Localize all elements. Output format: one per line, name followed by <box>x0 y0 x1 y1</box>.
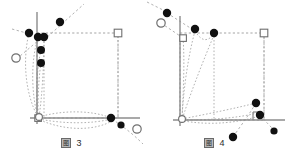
data-point <box>37 59 45 67</box>
diagram-canvas-4 <box>143 0 286 152</box>
data-point <box>40 33 48 41</box>
data-point <box>210 29 218 37</box>
open-square-marker <box>260 29 268 37</box>
data-point <box>163 9 171 17</box>
caption-figure-3: 图 3 <box>0 138 143 148</box>
data-point <box>107 114 115 122</box>
diagonal-guide-top-dot <box>167 13 195 31</box>
open-square-marker <box>114 29 122 37</box>
data-point <box>270 127 277 134</box>
data-point <box>117 121 124 128</box>
open-circle-marker-origin <box>179 116 186 123</box>
figure-glyph-icon: 图 <box>204 138 214 148</box>
data-point <box>56 18 64 26</box>
diagram-panel-3: 图 3 <box>0 0 143 152</box>
data-point <box>252 99 260 107</box>
open-circle-marker <box>133 125 141 133</box>
diagram-canvas-3 <box>0 0 143 152</box>
data-point <box>191 25 199 33</box>
figure-number: 4 <box>219 139 224 148</box>
open-square-marker-axis <box>180 35 187 42</box>
open-circle-marker-origin <box>36 114 43 121</box>
figure-number: 3 <box>76 139 81 148</box>
trajectory-curves <box>182 31 259 123</box>
drop-lines <box>44 33 118 118</box>
open-circle-marker <box>157 19 165 27</box>
data-point <box>25 29 33 37</box>
caption-figure-4: 图 4 <box>143 138 286 148</box>
diagram-panel-4: 图 4 <box>143 0 286 152</box>
dashed-rectangle <box>37 33 118 118</box>
figure-root: 图 3 <box>0 0 286 152</box>
open-circle-marker <box>12 54 20 62</box>
data-point <box>256 111 264 119</box>
data-point <box>37 46 45 54</box>
figure-glyph-icon: 图 <box>61 138 71 148</box>
dashed-rectangle <box>180 33 264 120</box>
